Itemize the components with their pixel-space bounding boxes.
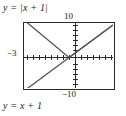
plot-frame xyxy=(23,22,115,90)
axis-label-y-max: 10 xyxy=(64,11,73,21)
graph-figure: y = |x + 1| 10 −3 xyxy=(0,0,126,116)
plot-canvas xyxy=(24,23,113,88)
equation-label-linear: y = x + 1 xyxy=(3,100,42,111)
curve-absolute-value xyxy=(24,23,113,58)
axis-label-y-min: −10 xyxy=(62,89,76,99)
axis-label-x-min: −3 xyxy=(7,48,17,58)
equation-label-absolute-value: y = |x + 1| xyxy=(3,2,48,13)
abs-left-branch xyxy=(24,23,69,58)
